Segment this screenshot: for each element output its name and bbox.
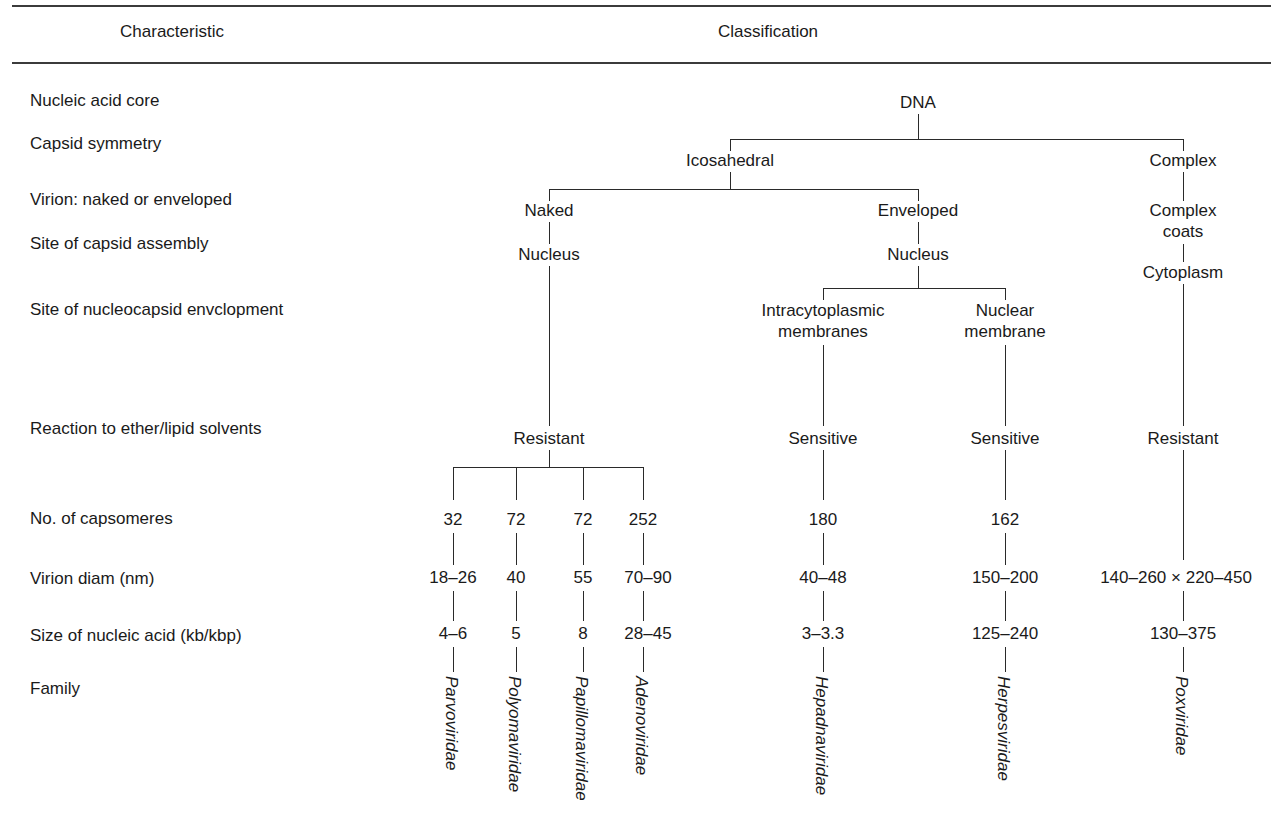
- value-diam-adenoviridae: 70–90: [624, 567, 671, 588]
- column-header-characteristic: Characteristic: [120, 22, 224, 42]
- connector-to-papillomaviridae: [583, 467, 584, 500]
- row-label-size-nucleic-acid: Size of nucleic acid (kb/kbp): [30, 626, 242, 646]
- connector-icosahedral-stem: [730, 172, 731, 189]
- connector-enveloped-to-nucleus: [918, 222, 919, 244]
- node-complex-coats-line2: coats: [1108, 221, 1258, 242]
- connector-resistant-split-bar: [453, 467, 643, 468]
- connector-hepadna-diam-size: [823, 591, 824, 621]
- connector-pox-to-family: [1183, 647, 1184, 672]
- family-polyomaviridae: Polyomaviridae: [504, 676, 524, 792]
- connector-hepadna-caps-diam: [823, 533, 824, 565]
- value-size-parvoviridae: 4–6: [439, 623, 467, 644]
- node-resistant-pox: Resistant: [1148, 428, 1219, 449]
- value-size-polyomaviridae: 5: [511, 623, 520, 644]
- connector-nucleus-stem: [918, 266, 919, 288]
- value-capsomeres-adenoviridae: 252: [629, 509, 657, 530]
- value-diam-polyomaviridae: 40: [507, 567, 526, 588]
- connector-resistant-stem: [549, 450, 550, 467]
- node-nuclear-line1: Nuclear: [976, 301, 1035, 320]
- connector-herpes-caps-diam: [1005, 533, 1006, 565]
- row-label-capsid-symmetry: Capsid symmetry: [30, 134, 161, 154]
- connector-herpes-to-family: [1005, 647, 1006, 672]
- connector-papilloma-caps-diam: [583, 533, 584, 565]
- value-diam-parvoviridae: 18–26: [429, 567, 476, 588]
- node-intracytoplasmic-line1: Intracytoplasmic: [762, 301, 885, 320]
- row-label-virion-diam: Virion diam (nm): [30, 569, 154, 589]
- value-capsomeres-parvoviridae: 32: [444, 509, 463, 530]
- node-nuclear-membrane: Nuclear membrane: [925, 300, 1085, 342]
- connector-dna-split-bar: [730, 139, 1183, 140]
- connector-parvo-caps-diam: [453, 533, 454, 565]
- connector-to-intracytoplasmic: [823, 288, 824, 300]
- node-sensitive-herpes: Sensitive: [971, 428, 1040, 449]
- connector-resistant-pox-stem: [1183, 450, 1184, 560]
- connector-sensitive-hepadna-stem: [823, 450, 824, 500]
- connector-pox-diam-size: [1183, 591, 1184, 621]
- table-header-rule: [12, 62, 1271, 64]
- family-parvoviridae: Parvoviridae: [441, 676, 461, 771]
- connector-polyoma-diam-size: [516, 591, 517, 621]
- value-diam-poxviridae: 140–260 × 220–450: [1100, 567, 1252, 588]
- value-diam-herpesviridae: 150–200: [972, 567, 1038, 588]
- node-intracytoplasmic-line2: membranes: [718, 321, 928, 342]
- column-header-classification: Classification: [718, 22, 818, 42]
- node-intracytoplasmic-membranes: Intracytoplasmic membranes: [718, 300, 928, 342]
- node-complex: Complex: [1149, 150, 1216, 171]
- virus-classification-diagram: Characteristic Classification Nucleic ac…: [0, 0, 1283, 817]
- table-top-rule: [12, 5, 1271, 7]
- connector-parvo-to-family: [453, 647, 454, 672]
- connector-coats-to-cytoplasm: [1183, 244, 1184, 262]
- value-capsomeres-papillomaviridae: 72: [574, 509, 593, 530]
- value-diam-papillomaviridae: 55: [574, 567, 593, 588]
- connector-polyoma-caps-diam: [516, 533, 517, 565]
- value-size-poxviridae: 130–375: [1150, 623, 1216, 644]
- row-label-nucleic-acid-core: Nucleic acid core: [30, 91, 159, 111]
- node-icosahedral: Icosahedral: [686, 150, 774, 171]
- family-poxviridae: Poxviridae: [1171, 676, 1191, 755]
- value-capsomeres-herpesviridae: 162: [991, 509, 1019, 530]
- connector-icosahedral-split-bar: [549, 189, 918, 190]
- connector-intracytoplasmic-to-sensitive: [823, 345, 824, 426]
- connector-to-parvoviridae: [453, 467, 454, 500]
- connector-polyoma-to-family: [516, 647, 517, 672]
- family-papillomaviridae: Papillomaviridae: [571, 676, 591, 801]
- row-label-virion-naked-enveloped: Virion: naked or enveloped: [30, 190, 232, 210]
- connector-to-adenoviridae: [643, 467, 644, 500]
- row-label-no-of-capsomeres: No. of capsomeres: [30, 509, 173, 529]
- value-diam-hepadnaviridae: 40–48: [799, 567, 846, 588]
- connector-sensitive-herpes-stem: [1005, 450, 1006, 500]
- connector-papilloma-to-family: [583, 647, 584, 672]
- value-size-herpesviridae: 125–240: [972, 623, 1038, 644]
- row-label-reaction-ether-lipid: Reaction to ether/lipid solvents: [30, 419, 262, 439]
- value-size-papillomaviridae: 8: [578, 623, 587, 644]
- connector-dna-stem: [918, 114, 919, 139]
- connector-adeno-caps-diam: [643, 533, 644, 565]
- node-sensitive-hepadna: Sensitive: [789, 428, 858, 449]
- node-dna: DNA: [900, 92, 936, 113]
- row-label-site-nucleocapsid-envelopment: Site of nucleocapsid envclopment: [30, 300, 283, 320]
- connector-herpes-diam-size: [1005, 591, 1006, 621]
- node-enveloped: Enveloped: [878, 200, 958, 221]
- connector-nuclear-to-sensitive: [1005, 345, 1006, 426]
- value-capsomeres-polyomaviridae: 72: [507, 509, 526, 530]
- connector-parvo-diam-size: [453, 591, 454, 621]
- connector-papilloma-diam-size: [583, 591, 584, 621]
- node-resistant-naked: Resistant: [514, 428, 585, 449]
- connector-adeno-to-family: [643, 647, 644, 672]
- node-enveloped-nucleus: Nucleus: [887, 244, 948, 265]
- row-label-site-capsid-assembly: Site of capsid assembly: [30, 234, 209, 254]
- node-complex-cytoplasm: Cytoplasm: [1143, 262, 1223, 283]
- connector-naked-nucleus-to-resistant: [549, 266, 550, 426]
- value-size-adenoviridae: 28–45: [624, 623, 671, 644]
- family-hepadnaviridae: Hepadnaviridae: [811, 676, 831, 795]
- value-capsomeres-hepadnaviridae: 180: [809, 509, 837, 530]
- connector-to-nuclear-membrane: [1005, 288, 1006, 300]
- connector-to-polyomaviridae: [516, 467, 517, 500]
- connector-naked-to-nucleus: [549, 222, 550, 244]
- connector-cytoplasm-to-resistant: [1183, 284, 1184, 426]
- value-size-hepadnaviridae: 3–3.3: [802, 623, 845, 644]
- connector-complex-to-coats: [1183, 172, 1184, 201]
- family-adenoviridae: Adenoviridae: [631, 676, 651, 775]
- node-naked-nucleus: Nucleus: [518, 244, 579, 265]
- node-complex-coats-line1: Complex: [1149, 201, 1216, 220]
